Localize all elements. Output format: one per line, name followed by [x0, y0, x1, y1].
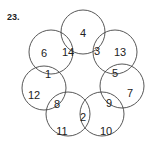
- region-number: 7: [127, 87, 133, 99]
- puzzle-figure: 23. 4614313151278921110: [0, 0, 148, 150]
- region-number: 12: [28, 89, 40, 101]
- seven-circle-diagram: 4614313151278921110: [0, 0, 148, 150]
- region-number: 3: [94, 45, 100, 57]
- region-number: 13: [114, 46, 126, 58]
- region-number: 10: [100, 125, 112, 137]
- region-number: 4: [80, 27, 86, 39]
- region-number: 14: [62, 46, 74, 58]
- region-number: 1: [45, 68, 51, 80]
- region-number: 2: [80, 111, 86, 123]
- region-number: 9: [106, 97, 112, 109]
- region-number: 11: [56, 125, 67, 137]
- region-number: 8: [54, 98, 60, 110]
- region-number: 6: [41, 47, 47, 59]
- region-number: 5: [112, 67, 118, 79]
